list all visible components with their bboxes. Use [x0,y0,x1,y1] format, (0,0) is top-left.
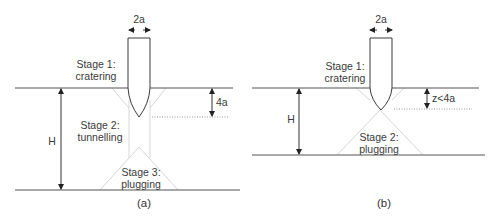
stage-2-title: Stage 2: [359,131,398,143]
depth-label: z<4a [432,92,455,104]
panel-caption: (a) [137,197,151,209]
stage-1-title: Stage 1: [325,60,364,72]
penetration-stages-diagram: 2a H 4a Stage 1: cratering Stage 2: tunn… [0,0,499,218]
panel-b: 2a H z<4a Stage 1: cratering Stage 2: pl… [252,13,485,209]
projectile [370,38,392,110]
thickness-label: H [48,135,56,147]
stage-1-name: cratering [325,72,366,84]
stage-3-title: Stage 3: [121,166,160,178]
crater-cone-left [356,88,370,100]
panel-caption: (b) [377,197,391,209]
stage-1-name: cratering [76,70,117,82]
stage-2-title: Stage 2: [80,119,119,131]
stage-2-name: plugging [359,143,399,155]
depth-label: 4a [216,96,228,108]
thickness-label: H [287,113,295,125]
width-label: 2a [133,13,145,25]
stage-1-title: Stage 1: [76,58,115,70]
projectile [128,38,150,117]
crater-cone-left [112,88,129,108]
panel-a: 2a H 4a Stage 1: cratering Stage 2: tunn… [15,13,240,209]
stage-2-name: tunnelling [78,131,123,143]
stage-3-name: plugging [121,178,161,190]
width-label: 2a [375,13,387,25]
crater-cone-right [150,88,166,108]
crater-cone-right [392,88,404,100]
